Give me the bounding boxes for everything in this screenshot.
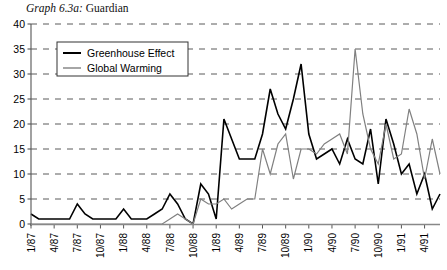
x-tick-label: 10/90 xyxy=(373,233,384,258)
series-line-greenhouse-effect xyxy=(31,64,440,224)
x-tick-label: 7/89 xyxy=(257,233,268,253)
x-tick-label: 4/90 xyxy=(327,233,338,253)
x-tick-label: 1/88 xyxy=(118,233,129,253)
y-tick-label: 20 xyxy=(13,118,25,130)
y-tick-label: 10 xyxy=(13,168,25,180)
x-tick-label: 1/87 xyxy=(26,233,37,253)
x-tick-label: 10/89 xyxy=(280,233,291,258)
y-tick-label: 0 xyxy=(19,218,25,230)
x-tick-label: 4/89 xyxy=(234,233,245,253)
x-tick-label: 1/89 xyxy=(211,233,222,253)
x-tick-label: 10/88 xyxy=(188,233,199,258)
x-tick-label: 7/87 xyxy=(72,233,83,253)
y-tick-label: 40 xyxy=(13,18,25,30)
x-tick-label: 1/90 xyxy=(303,233,314,253)
x-tick-label: 10/87 xyxy=(95,233,106,258)
y-tick-label: 15 xyxy=(13,143,25,155)
y-tick-label: 5 xyxy=(19,193,25,205)
x-tick-label: 4/88 xyxy=(141,233,152,253)
y-tick-label: 30 xyxy=(13,68,25,80)
x-tick-label: 7/90 xyxy=(350,233,361,253)
x-tick-label: 7/88 xyxy=(165,233,176,253)
y-tick-label: 35 xyxy=(13,43,25,55)
line-chart: 0510152025303540 1/874/877/8710/871/884/… xyxy=(0,0,447,270)
y-tick-group: 0510152025303540 xyxy=(13,18,31,230)
legend: Greenhouse EffectGlobal Warming xyxy=(57,42,188,76)
x-tick-label: 4/87 xyxy=(49,233,60,253)
x-tick-group: 1/874/877/8710/871/884/887/8810/881/894/… xyxy=(26,224,431,258)
legend-label: Global Warming xyxy=(87,62,162,74)
y-tick-label: 25 xyxy=(13,93,25,105)
legend-label: Greenhouse Effect xyxy=(87,47,174,59)
figure-container: Graph 6.3a: Guardian 0510152025303540 1/… xyxy=(0,0,447,270)
x-tick-label: 1/91 xyxy=(396,233,407,253)
x-tick-label: 4/91 xyxy=(419,233,430,253)
